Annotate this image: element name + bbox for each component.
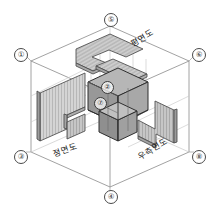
corner-marker-4: ④ [104, 190, 118, 204]
object-marker-2: ② [101, 81, 114, 94]
projection-box-diagram [0, 0, 220, 213]
corner-marker-6: ⑥ [192, 48, 206, 62]
front-view-plate [37, 73, 85, 141]
corner-marker-5: ⑤ [104, 13, 118, 27]
object-marker-7: ⑦ [94, 97, 107, 110]
figure-container: ① ⑤ ⑥ ③ ⑧ ④ ② ⑦ 평면도 정면도 우측면도 [0, 0, 220, 213]
corner-marker-1: ① [14, 48, 28, 62]
corner-marker-3: ③ [14, 150, 28, 164]
corner-marker-8: ⑧ [192, 150, 206, 164]
